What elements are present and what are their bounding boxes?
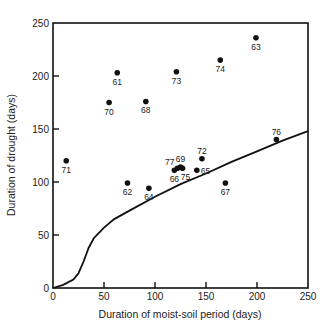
point-label: 62 — [123, 187, 133, 197]
y-tick-label: 50 — [38, 230, 50, 241]
y-tick-label: 0 — [43, 283, 49, 294]
y-tick-label: 250 — [32, 18, 49, 29]
point-label: 75 — [181, 172, 191, 182]
point-label: 71 — [62, 165, 72, 175]
point-label: 77 — [165, 157, 175, 167]
data-point — [253, 35, 259, 41]
point-label: 67 — [221, 187, 231, 197]
data-point — [143, 99, 149, 105]
x-tick-label: 200 — [249, 291, 266, 302]
point-label: 66 — [170, 174, 180, 184]
x-tick-label: 100 — [147, 291, 164, 302]
y-tick-label: 200 — [32, 71, 49, 82]
y-tick-label: 150 — [32, 124, 49, 135]
x-tick-label: 0 — [50, 291, 56, 302]
point-label: 73 — [172, 76, 182, 86]
y-axis-label: Duration of drought (days) — [5, 94, 17, 216]
data-point — [114, 70, 120, 76]
point-label: 70 — [104, 107, 114, 117]
point-label: 65 — [201, 166, 211, 176]
data-point — [63, 158, 69, 164]
data-point — [223, 180, 229, 186]
data-point — [194, 168, 200, 174]
point-label: 76 — [272, 127, 282, 137]
point-label: 63 — [251, 42, 261, 52]
point-label: 68 — [141, 105, 151, 115]
x-tick-label: 150 — [198, 291, 215, 302]
point-label: 64 — [144, 192, 154, 202]
data-point — [174, 69, 180, 75]
data-point — [146, 186, 152, 192]
point-label: 69 — [176, 154, 186, 164]
data-point — [180, 165, 186, 171]
point-label: 72 — [197, 146, 207, 156]
scatter-chart: 050100150200250050100150200250 716170687… — [0, 0, 332, 332]
data-point — [106, 100, 112, 106]
point-label: 74 — [216, 64, 226, 74]
x-tick-label: 250 — [300, 291, 317, 302]
x-tick-label: 50 — [98, 291, 110, 302]
y-tick-label: 100 — [32, 177, 49, 188]
data-point — [274, 137, 280, 143]
data-point — [217, 57, 223, 63]
x-axis-label: Duration of moist-soil period (days) — [99, 308, 262, 320]
data-point — [125, 180, 131, 186]
point-label: 61 — [113, 77, 123, 87]
data-point — [199, 156, 205, 162]
